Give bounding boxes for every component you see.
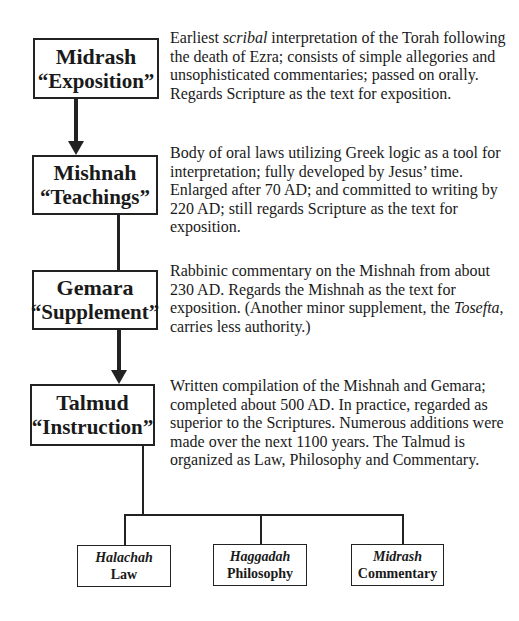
connector-halachah bbox=[124, 514, 126, 545]
mishnah-subtitle: “Teachings” bbox=[40, 185, 150, 209]
connector-mishnah-gemara bbox=[117, 215, 120, 271]
talmud-box: Talmud “Instruction” bbox=[30, 384, 155, 446]
arrow-head-icon bbox=[111, 370, 127, 384]
gemara-box: Gemara “Supplement” bbox=[32, 270, 158, 330]
mishnah-box: Mishnah “Teachings” bbox=[32, 155, 158, 215]
midrash-subtitle: “Exposition” bbox=[38, 69, 155, 93]
talmud-subtitle: “Instruction” bbox=[32, 415, 153, 439]
haggadah-subtitle: Philosophy bbox=[227, 565, 293, 582]
gemara-description: Rabbinic commentary on the Mishnah from … bbox=[170, 262, 515, 336]
talmud-description: Written compilation of the Mishnah and G… bbox=[170, 377, 515, 470]
midrash-box: Midrash “Exposition” bbox=[33, 38, 159, 99]
midrash-commentary-name: Midrash bbox=[373, 548, 422, 565]
talmud-name: Talmud bbox=[56, 391, 129, 415]
halachah-subtitle: Law bbox=[111, 566, 137, 583]
connector-haggadah bbox=[260, 514, 262, 545]
gemara-name: Gemara bbox=[57, 276, 134, 300]
midrash-name: Midrash bbox=[56, 45, 137, 69]
midrash-commentary-subtitle: Commentary bbox=[358, 565, 437, 582]
halachah-name: Halachah bbox=[95, 549, 153, 566]
mishnah-description: Body of oral laws utilizing Greek logic … bbox=[170, 144, 515, 237]
connector-midrash-commentary bbox=[402, 514, 404, 545]
tree-horizontal-line bbox=[124, 514, 403, 516]
connector-talmud-tree bbox=[142, 446, 144, 515]
haggadah-box: Haggadah Philosophy bbox=[213, 544, 307, 586]
haggadah-name: Haggadah bbox=[230, 548, 291, 565]
midrash-commentary-box: Midrash Commentary bbox=[351, 544, 444, 586]
tosefta-emphasis: Tosefta bbox=[454, 299, 500, 316]
mishnah-name: Mishnah bbox=[53, 161, 136, 185]
connector-arrow-midrash-mishnah bbox=[74, 99, 78, 143]
halachah-box: Halachah Law bbox=[77, 545, 171, 587]
connector-arrow-gemara-talmud bbox=[117, 330, 121, 372]
midrash-description: Earliest scribal interpretation of the T… bbox=[170, 29, 515, 103]
gemara-subtitle: “Supplement” bbox=[31, 300, 159, 324]
scribal-emphasis: scribal bbox=[223, 29, 267, 46]
arrow-head-icon bbox=[68, 141, 84, 155]
